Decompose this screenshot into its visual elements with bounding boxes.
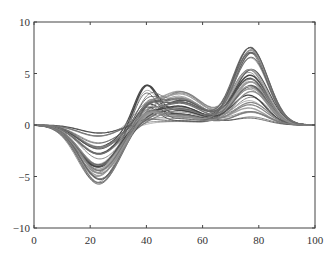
x-tick-label: 100 [307, 234, 324, 246]
x-tick-label: 40 [141, 234, 153, 246]
y-tick-label: 10 [19, 16, 31, 28]
x-tick-label: 20 [85, 234, 97, 246]
curve [34, 72, 315, 182]
line-chart: 020406080100 1050−5−10 [0, 0, 330, 260]
x-tick-label: 60 [197, 234, 209, 246]
x-tick-label: 0 [31, 234, 37, 246]
curve-family [34, 47, 315, 184]
y-tick-label: −5 [18, 171, 30, 183]
y-axis-ticks: 1050−5−10 [13, 16, 315, 234]
y-tick-label: −10 [13, 222, 31, 234]
axes-frame [34, 22, 315, 228]
y-tick-label: 5 [25, 68, 31, 80]
x-tick-label: 80 [253, 234, 265, 246]
y-tick-label: 0 [25, 119, 31, 131]
